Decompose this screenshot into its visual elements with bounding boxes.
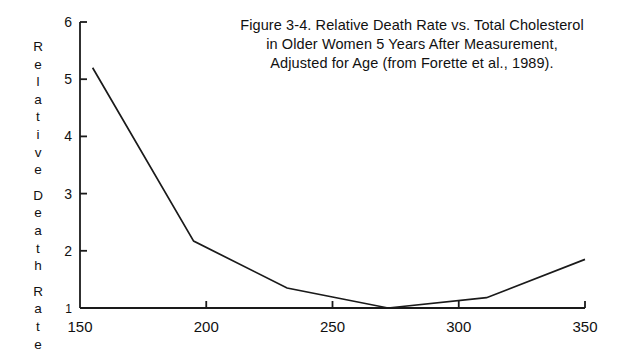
axis-ticks-group xyxy=(80,79,459,308)
y-tick-label: 4 xyxy=(52,129,72,143)
x-tick-label: 200 xyxy=(176,319,236,334)
x-tick-label: 350 xyxy=(555,319,615,334)
x-tick-label: 300 xyxy=(429,319,489,334)
y-tick-label: 1 xyxy=(52,302,72,316)
y-tick-label: 3 xyxy=(52,187,72,201)
y-tick-label: 5 xyxy=(52,72,72,86)
x-tick-label: 150 xyxy=(50,319,110,334)
axes-group xyxy=(80,22,585,308)
plot-area: 123456 150200250300350 xyxy=(0,0,624,355)
plot-svg xyxy=(0,0,624,355)
y-tick-label: 6 xyxy=(52,15,72,29)
data-series-line xyxy=(93,68,585,308)
y-tick-label: 2 xyxy=(52,244,72,258)
figure-container: Figure 3-4. Relative Death Rate vs. Tota… xyxy=(0,0,624,355)
x-tick-label: 250 xyxy=(303,319,363,334)
